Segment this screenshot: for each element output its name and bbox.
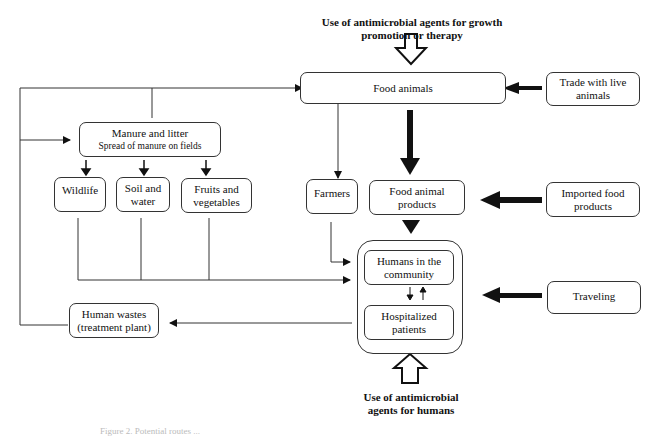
figure-caption: Figure 2. Potential routes ...	[100, 426, 200, 436]
node-manure: Manure and litter Spread of manure on fi…	[79, 122, 221, 157]
manure-title: Manure and litter	[112, 127, 188, 140]
node-wildlife: Wildlife	[54, 177, 106, 212]
node-trade-live-animals: Trade with live animals	[546, 72, 640, 106]
node-human-wastes: Human wastes (treatment plant)	[69, 303, 159, 338]
manure-subtitle: Spread of manure on fields	[99, 140, 202, 153]
node-food-animals: Food animals	[300, 72, 506, 104]
bottom-use-label: Use of antimicrobial agents for humans	[352, 391, 470, 417]
node-traveling: Traveling	[547, 281, 641, 314]
node-imported-food-products: Imported food products	[546, 182, 640, 217]
node-fruits-vegetables: Fruits and vegetables	[181, 178, 252, 213]
hollow-arrow-up-icon	[394, 354, 426, 383]
node-farmers: Farmers	[306, 179, 358, 214]
node-humans-community: Humans in the community	[364, 250, 454, 285]
node-food-animal-products: Food animal products	[369, 180, 465, 215]
node-soil-water: Soil and water	[116, 177, 170, 212]
node-hospitalized-patients: Hospitalized patients	[364, 305, 454, 340]
top-use-label: Use of antimicrobial agents for growth p…	[318, 16, 506, 42]
